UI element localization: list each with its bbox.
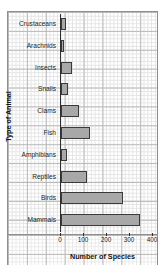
bar-row: Birds — [60, 188, 152, 210]
bar-row: Clams — [60, 101, 152, 123]
y-axis-title: Type of Animal — [4, 77, 13, 157]
bar-row: Snails — [60, 79, 152, 101]
bar — [61, 40, 64, 52]
category-label: Reptiles — [32, 170, 56, 183]
category-label: Clams — [37, 104, 56, 117]
bar-row: Mammals — [60, 210, 152, 232]
x-axis-tick-label: 400 — [147, 236, 158, 243]
x-axis-tick-label: 300 — [124, 236, 135, 243]
bar — [61, 171, 87, 183]
bar-chart: CrustaceansArachnidsInsectsSnailsClamsFi… — [0, 0, 165, 265]
bar — [61, 127, 90, 139]
category-label: Arachnids — [27, 39, 56, 52]
category-label: Insects — [35, 61, 56, 74]
bar — [61, 18, 66, 30]
bar — [61, 149, 67, 161]
bar — [61, 192, 123, 204]
plot-area: CrustaceansArachnidsInsectsSnailsClamsFi… — [60, 14, 152, 232]
bar — [61, 83, 68, 95]
x-axis-tick-label: 0 — [58, 236, 62, 243]
category-label: Mammals — [27, 213, 56, 226]
bar-row: Reptiles — [60, 167, 152, 189]
bar-row: Fish — [60, 123, 152, 145]
bar-row: Arachnids — [60, 36, 152, 58]
bar — [61, 105, 79, 117]
bar — [61, 214, 140, 226]
chart-title — [7, 0, 158, 3]
bar — [61, 62, 72, 74]
bar-row: Insects — [60, 58, 152, 80]
category-label: Fish — [44, 126, 56, 139]
x-axis-tick-label: 200 — [101, 236, 112, 243]
category-label: Amphibians — [22, 148, 56, 161]
category-label: Crustaceans — [19, 17, 56, 30]
x-axis-tick-label: 100 — [78, 236, 89, 243]
category-label: Birds — [41, 191, 56, 204]
x-axis: 0100200300400 — [60, 233, 152, 245]
bar-row: Amphibians — [60, 145, 152, 167]
bar-row: Crustaceans — [60, 14, 152, 36]
category-label: Snails — [38, 82, 56, 95]
x-axis-title: Number of Species — [40, 252, 165, 261]
